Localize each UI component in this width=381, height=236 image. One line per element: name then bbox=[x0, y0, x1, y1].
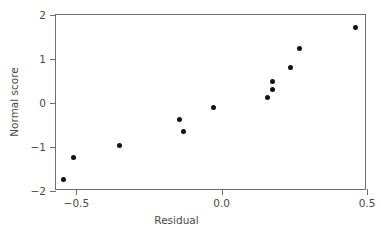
data-point bbox=[177, 117, 182, 122]
normal-probability-plot-figure: 210−1−2 −0.50.00.5 Normal score Residual bbox=[0, 0, 381, 236]
y-axis-title-text: Normal score bbox=[8, 67, 20, 137]
data-point bbox=[117, 143, 122, 148]
x-axis-tick bbox=[222, 189, 223, 195]
y-axis-tick bbox=[50, 191, 56, 192]
y-axis-title: Normal score bbox=[4, 0, 24, 204]
data-point bbox=[270, 87, 275, 92]
data-point bbox=[270, 79, 275, 84]
y-axis-tick bbox=[50, 15, 56, 16]
scatter-data-area bbox=[56, 15, 367, 191]
x-axis-tick-label: 0.5 bbox=[337, 198, 381, 209]
x-axis-tick-label: 0.0 bbox=[192, 198, 252, 209]
data-point bbox=[297, 46, 302, 51]
x-axis-title: Residual bbox=[0, 214, 381, 226]
plot-frame: 210−1−2 −0.50.00.5 bbox=[55, 14, 366, 190]
data-point bbox=[265, 95, 270, 100]
data-point bbox=[71, 155, 76, 160]
x-axis-title-text: Residual bbox=[154, 214, 198, 226]
y-axis-tick bbox=[50, 59, 56, 60]
data-point bbox=[211, 105, 216, 110]
y-axis-tick bbox=[50, 147, 56, 148]
data-point bbox=[181, 129, 186, 134]
x-axis-tick-label: −0.5 bbox=[46, 198, 106, 209]
data-point bbox=[353, 25, 358, 30]
x-axis-tick bbox=[76, 189, 77, 195]
data-point bbox=[288, 65, 293, 70]
x-axis-tick bbox=[367, 189, 368, 195]
data-point bbox=[61, 177, 66, 182]
y-axis-tick bbox=[50, 103, 56, 104]
